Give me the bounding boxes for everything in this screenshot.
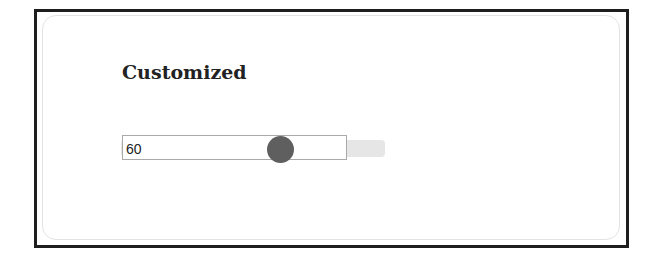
- slider-thumb[interactable]: [267, 136, 294, 163]
- outer-frame: Customized: [34, 9, 629, 248]
- slider-panel: Customized: [42, 15, 620, 240]
- panel-title: Customized: [122, 61, 247, 83]
- slider-value-input[interactable]: [122, 135, 347, 160]
